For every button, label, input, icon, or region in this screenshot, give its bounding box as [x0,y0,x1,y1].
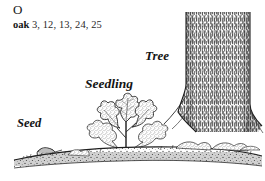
tree-trunk [164,8,265,138]
figure-label-seed: Seed [17,116,41,131]
ground-line [0,140,265,175]
index-page-with-illustration: O oak 3, 12, 13, 24, 25 [0,0,265,181]
figure-label-seedling: Seedling [85,76,133,92]
figure-label-tree: Tree [145,48,169,64]
